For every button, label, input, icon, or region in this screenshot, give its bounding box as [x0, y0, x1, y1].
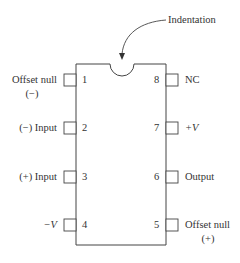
pin-number-7: 7	[154, 122, 159, 134]
pin-label-8: NC	[185, 74, 200, 86]
pin-number-8: 8	[154, 74, 159, 86]
pin-number-4: 4	[82, 219, 87, 231]
pin-number-2: 2	[82, 122, 87, 134]
pin-3-lead	[64, 171, 76, 183]
pin-number-6: 6	[154, 171, 159, 183]
pin-label-4: −V	[44, 219, 58, 231]
ic-body	[76, 64, 166, 245]
pin-label-2: (−) Input	[19, 122, 57, 134]
pin-number-5: 5	[154, 219, 159, 231]
pin-7-lead	[166, 122, 178, 134]
pin-4-lead	[64, 219, 76, 231]
pin-label-5: Offset null	[185, 219, 230, 231]
arrow-head-icon	[119, 53, 125, 60]
pin-5-lead	[166, 219, 178, 231]
pin-label-7: +V	[185, 122, 199, 134]
pin-label-1: Offset null	[12, 74, 57, 86]
pin-6-lead	[166, 171, 178, 183]
pin-number-1: 1	[82, 74, 87, 86]
pin-1-lead	[64, 74, 76, 86]
pin-sublabel-5: (+)	[196, 233, 220, 245]
pin-2-lead	[64, 122, 76, 134]
pin-label-6: Output	[185, 171, 214, 183]
pin-sublabel-1: (−)	[20, 88, 44, 100]
pin-8-lead	[166, 74, 178, 86]
indentation-label: Indentation	[168, 14, 216, 26]
pin-label-3: (+) Input	[19, 171, 57, 183]
pin-number-3: 3	[82, 171, 87, 183]
indentation-arrow	[122, 20, 166, 54]
